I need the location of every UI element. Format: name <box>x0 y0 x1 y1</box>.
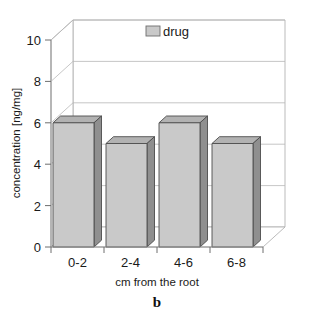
bar-0-2[interactable] <box>53 116 102 247</box>
bar-side-face <box>147 137 155 247</box>
bar-top-face <box>159 116 208 123</box>
bar-front-face <box>106 144 147 248</box>
y-tick-label-4: 4 <box>34 157 41 172</box>
bar-4-6[interactable] <box>159 116 208 247</box>
y-axis-title: concentration [ng/mg] <box>10 88 22 199</box>
x-axis: 0-2 2-4 4-6 6-8 <box>51 247 263 270</box>
x-tick-label-4-6: 4-6 <box>174 255 193 270</box>
legend-swatch-drug <box>146 26 160 36</box>
bar-chart: 10 8 6 4 2 0 concentration [ng/mg] <box>0 0 310 318</box>
x-tick-label-2-4: 2-4 <box>121 255 140 270</box>
bar-side-face <box>94 116 102 247</box>
y-tick-label-2: 2 <box>34 199 41 214</box>
y-tick-label-0: 0 <box>34 240 41 255</box>
bar-front-face <box>53 123 94 247</box>
bar-top-face <box>212 137 261 144</box>
bar-2-4[interactable] <box>106 137 155 247</box>
bar-front-face <box>159 123 200 247</box>
y-tick-label-6: 6 <box>34 116 41 131</box>
y-tick-label-8: 8 <box>34 74 41 89</box>
panel-label: b <box>153 294 161 310</box>
bar-6-8[interactable] <box>212 137 261 247</box>
bar-top-face <box>53 116 102 123</box>
x-tick-label-0-2: 0-2 <box>68 255 87 270</box>
bar-front-face <box>212 144 253 248</box>
y-tick-label-10: 10 <box>27 33 41 48</box>
x-axis-title: cm from the root <box>115 276 200 288</box>
figure-container: 10 8 6 4 2 0 concentration [ng/mg] <box>0 0 310 318</box>
bar-top-face <box>106 137 155 144</box>
bar-side-face <box>253 137 261 247</box>
x-tick-label-6-8: 6-8 <box>227 255 246 270</box>
legend-label-drug: drug <box>163 24 189 39</box>
bar-side-face <box>200 116 208 247</box>
